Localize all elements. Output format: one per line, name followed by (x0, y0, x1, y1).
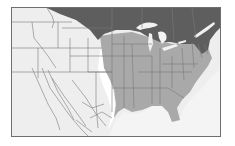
range-map-svg (12, 8, 221, 137)
range-map (11, 7, 221, 137)
